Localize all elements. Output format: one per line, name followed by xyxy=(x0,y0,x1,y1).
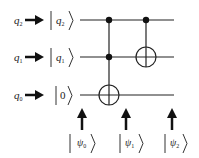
input-arrow-q1-icon xyxy=(25,52,44,62)
quantum-circuit: q2 q2 q1 q1 q0 xyxy=(0,0,199,158)
qubit-row-q1: q1 q1 xyxy=(14,48,174,67)
state-arrow-up-icon xyxy=(77,108,87,130)
svg-text:ψ1: ψ1 xyxy=(125,137,134,149)
input-arrow-q0-icon xyxy=(25,90,44,100)
state-arrow-up-icon xyxy=(121,108,131,130)
svg-text:q1: q1 xyxy=(56,51,65,64)
cnot-gate xyxy=(136,17,156,67)
qubit-row-q2: q2 q2 xyxy=(14,11,174,30)
control-dot-q1 xyxy=(106,54,112,60)
svg-text:0: 0 xyxy=(60,89,66,101)
input-ket-q0: 0 xyxy=(56,86,72,105)
qubit-label-q2: q2 xyxy=(14,14,23,27)
svg-text:q2: q2 xyxy=(56,14,65,27)
state-arrow-up-icon xyxy=(167,108,177,130)
state-marker-psi0: ψ0 xyxy=(70,108,95,153)
svg-text:ψ0: ψ0 xyxy=(77,137,86,149)
control-dot-q2 xyxy=(143,17,149,23)
control-dot-q2 xyxy=(106,17,112,23)
input-ket-q2: q2 xyxy=(51,11,73,30)
state-marker-psi2: ψ2 xyxy=(165,108,187,153)
qubit-row-q0: q0 0 xyxy=(14,86,174,105)
qubit-label-q0: q0 xyxy=(14,89,23,102)
input-ket-q1: q1 xyxy=(51,48,73,67)
toffoli-gate xyxy=(99,17,119,105)
svg-text:ψ2: ψ2 xyxy=(170,137,179,149)
state-marker-psi1: ψ1 xyxy=(120,108,143,153)
input-arrow-q2-icon xyxy=(25,15,44,25)
qubit-label-q1: q1 xyxy=(14,51,23,64)
